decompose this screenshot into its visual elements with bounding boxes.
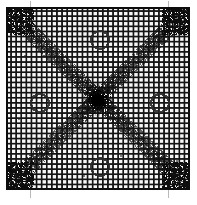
figure-svg <box>0 0 197 205</box>
halftone-figure-canvas <box>0 0 197 205</box>
center-blob <box>81 83 115 117</box>
corner-cluster-sw <box>8 162 34 188</box>
corner-cluster-ne <box>162 9 188 35</box>
corner-cluster-nw <box>8 9 34 35</box>
plate-contents <box>4 5 192 192</box>
corner-cluster-se <box>162 162 188 188</box>
